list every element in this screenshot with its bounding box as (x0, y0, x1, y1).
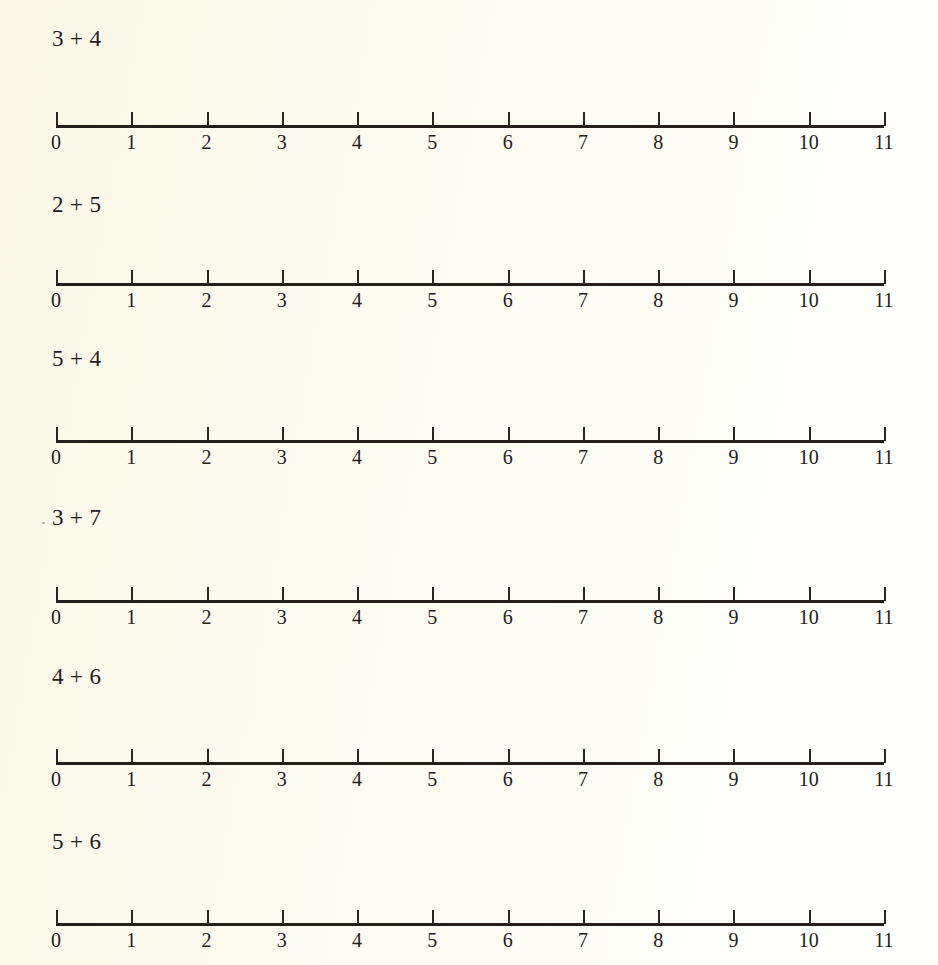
number-line-tick-label: 2 (187, 446, 227, 469)
number-line-tick (884, 112, 886, 126)
number-line-tick (207, 270, 209, 284)
number-line-tick (131, 749, 133, 763)
number-line-tick (56, 427, 58, 441)
problem-statement: 4+6 (52, 664, 101, 690)
problem-operator: + (64, 505, 89, 530)
number-line-tick (131, 112, 133, 126)
number-line-tick (658, 427, 660, 441)
number-line-tick (809, 910, 811, 924)
problem-statement: 5+4 (52, 346, 101, 372)
number-line-tick-label: 4 (337, 929, 377, 952)
number-line-tick-label: 5 (412, 131, 452, 154)
number-line-tick (733, 749, 735, 763)
number-line-tick-label: 8 (638, 929, 678, 952)
number-line-tick-label: 7 (563, 929, 603, 952)
number-line-tick-label: 9 (713, 446, 753, 469)
number-line-tick (733, 587, 735, 601)
number-line-tick-label: 4 (337, 606, 377, 629)
number-line-tick (357, 910, 359, 924)
number-line-tick (884, 910, 886, 924)
number-line-tick-label: 7 (563, 606, 603, 629)
number-line-tick (207, 427, 209, 441)
number-line-tick-label: 10 (789, 446, 829, 469)
problem-addend-b: 6 (89, 664, 101, 689)
number-line-tick (432, 910, 434, 924)
number-line: 01234567891011 (56, 107, 884, 153)
number-line-tick-label: 3 (262, 446, 302, 469)
number-line-tick-label: 5 (412, 606, 452, 629)
problem-addend-a: 2 (52, 192, 64, 217)
number-line-tick-label: 4 (337, 289, 377, 312)
number-line-tick (432, 270, 434, 284)
problem-operator: + (64, 346, 89, 371)
number-line-tick-label: 11 (864, 929, 904, 952)
number-line-tick (432, 112, 434, 126)
number-line-tick (131, 587, 133, 601)
number-line-tick-label: 9 (713, 606, 753, 629)
number-line-tick-label: 10 (789, 131, 829, 154)
number-line-tick-label: 5 (412, 289, 452, 312)
number-line-tick (432, 587, 434, 601)
number-line-tick-label: 6 (488, 929, 528, 952)
number-line-tick (357, 427, 359, 441)
number-line-tick-label: 9 (713, 929, 753, 952)
number-line: 01234567891011 (56, 422, 884, 468)
number-line-tick (658, 587, 660, 601)
number-line-tick (207, 112, 209, 126)
number-line-tick (56, 112, 58, 126)
problem-addend-a: 3 (52, 505, 64, 530)
number-line-tick-label: 11 (864, 606, 904, 629)
number-line-tick (809, 270, 811, 284)
problem-statement: 3+4 (52, 26, 101, 52)
number-line-tick-label: 4 (337, 131, 377, 154)
problem-addend-a: 4 (52, 664, 64, 689)
worksheet-sheet: 3+4012345678910112+5012345678910115+4012… (0, 0, 938, 965)
number-line-tick-label: 0 (36, 446, 76, 469)
number-line-axis (56, 125, 884, 128)
problem-operator: + (64, 829, 89, 854)
number-line-tick-label: 7 (563, 131, 603, 154)
number-line-tick-label: 8 (638, 446, 678, 469)
number-line-tick (282, 910, 284, 924)
number-line-tick-label: 3 (262, 606, 302, 629)
number-line-tick-label: 6 (488, 131, 528, 154)
problem-operator: + (64, 26, 89, 51)
number-line-tick-label: 8 (638, 606, 678, 629)
number-line-tick-label: 11 (864, 289, 904, 312)
number-line-axis (56, 600, 884, 603)
number-line-tick (282, 427, 284, 441)
number-line-tick-label: 2 (187, 289, 227, 312)
number-line-tick-label: 0 (36, 289, 76, 312)
number-line-tick (583, 749, 585, 763)
number-line-tick (508, 427, 510, 441)
number-line-tick (583, 910, 585, 924)
number-line-tick (583, 587, 585, 601)
number-line-tick-label: 7 (563, 289, 603, 312)
number-line-tick (583, 427, 585, 441)
number-line-tick (658, 749, 660, 763)
number-line: 01234567891011 (56, 905, 884, 951)
print-speck (42, 522, 45, 524)
number-line-tick (432, 749, 434, 763)
number-line-tick-label: 6 (488, 446, 528, 469)
number-line-tick-label: 6 (488, 289, 528, 312)
number-line-tick-label: 0 (36, 929, 76, 952)
number-line-tick-label: 6 (488, 768, 528, 791)
number-line-tick (733, 910, 735, 924)
number-line-tick-label: 5 (412, 446, 452, 469)
number-line-axis (56, 923, 884, 926)
number-line-tick-label: 3 (262, 289, 302, 312)
number-line-axis (56, 283, 884, 286)
number-line-tick-label: 1 (111, 929, 151, 952)
number-line-tick-label: 9 (713, 289, 753, 312)
number-line-tick-label: 5 (412, 768, 452, 791)
problem-addend-b: 7 (89, 505, 101, 530)
number-line-tick-label: 0 (36, 606, 76, 629)
problem-addend-a: 3 (52, 26, 64, 51)
number-line-tick (207, 587, 209, 601)
number-line-tick-label: 3 (262, 929, 302, 952)
problem-addend-a: 5 (52, 346, 64, 371)
problem-addend-b: 5 (89, 192, 101, 217)
problem-addend-b: 6 (89, 829, 101, 854)
number-line-tick-label: 11 (864, 446, 904, 469)
